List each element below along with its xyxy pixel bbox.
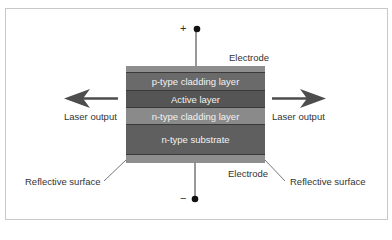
p-type-cladding-layer: p-type cladding layer xyxy=(126,73,265,91)
right-laser-output-label: Laser output xyxy=(272,111,325,122)
laser-layer-stack: p-type cladding layer Active layer n-typ… xyxy=(126,66,265,163)
left-laser-arrow-icon xyxy=(64,89,118,108)
bottom-electrode-layer xyxy=(126,155,265,163)
top-electrode-layer xyxy=(126,66,265,73)
top-electrode-label: Electrode xyxy=(229,52,269,63)
negative-terminal-label: − xyxy=(180,193,186,204)
bottom-electrode-label: Electrode xyxy=(228,168,268,179)
right-reflective-surface-label: Reflective surface xyxy=(290,176,366,187)
n-type-substrate-layer: n-type substrate xyxy=(126,125,265,155)
right-laser-arrow-icon xyxy=(272,89,326,108)
n-type-cladding-layer: n-type cladding layer xyxy=(126,108,265,125)
positive-terminal-label: + xyxy=(180,23,186,34)
negative-terminal-dot xyxy=(192,196,199,203)
left-reflective-leader xyxy=(104,160,126,181)
left-reflective-surface-label: Reflective surface xyxy=(25,176,101,187)
positive-terminal-dot xyxy=(194,26,201,33)
active-layer: Active layer xyxy=(126,91,265,108)
left-laser-output-label: Laser output xyxy=(64,111,117,122)
